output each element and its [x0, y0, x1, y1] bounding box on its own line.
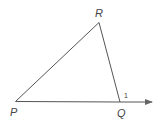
vertex-label-p: P — [10, 106, 18, 118]
side-pr — [16, 23, 100, 102]
side-pq — [16, 102, 121, 103]
side-rq — [99, 23, 120, 103]
triangle-diagram: R P Q 1 — [0, 0, 165, 132]
angle-label-1: 1 — [124, 92, 128, 99]
vertex-label-q: Q — [117, 107, 126, 119]
vertex-label-r: R — [95, 7, 103, 19]
